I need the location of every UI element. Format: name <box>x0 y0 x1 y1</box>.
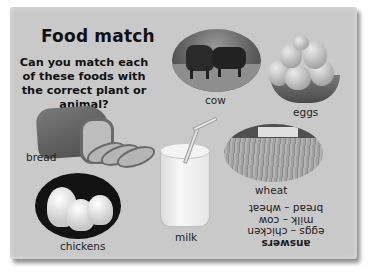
eggs-label: eggs <box>293 106 318 118</box>
chickens-image <box>35 173 121 239</box>
chickens-label: chickens <box>60 240 105 252</box>
page-title: Food match <box>41 26 155 46</box>
wheat-image <box>224 124 323 182</box>
milk-label: milk <box>175 231 197 243</box>
answers-block: answers eggs – chicken milk – cow bread … <box>238 203 334 249</box>
answer-line: eggs – chicken <box>238 226 334 238</box>
cow-label: cow <box>205 94 226 106</box>
bread-label: bread <box>26 151 56 163</box>
answer-line: milk – cow <box>238 215 334 227</box>
answer-line: bread – wheat <box>238 203 334 215</box>
cow-image <box>172 29 261 92</box>
wheat-label: wheat <box>255 184 287 196</box>
question-text: Can you match each of these foods with t… <box>19 56 149 112</box>
answers-title: answers <box>238 238 334 250</box>
